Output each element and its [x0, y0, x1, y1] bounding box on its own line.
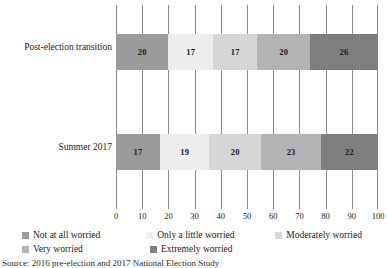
legend-row: Not at all worriedOnly a little worriedM… — [22, 228, 382, 242]
bar-segment: 20 — [116, 34, 168, 70]
bar-segment: 19 — [160, 134, 209, 170]
legend-label: Only a little worried — [157, 230, 234, 240]
legend-swatch-icon — [275, 232, 282, 239]
legend-swatch-icon — [22, 232, 29, 239]
x-tick-label: 20 — [164, 211, 173, 221]
legend-label: Very worried — [33, 244, 83, 254]
bar-segment: 17 — [213, 34, 258, 70]
plot-area: 2017172026 1719202322 — [116, 5, 378, 203]
chart-legend: Not at all worriedOnly a little worriedM… — [22, 228, 382, 256]
x-tick-label: 90 — [348, 211, 357, 221]
x-tick-mark — [273, 203, 274, 209]
legend-label: Extremely worried — [161, 244, 233, 254]
bar-row: 2017172026 — [116, 34, 378, 70]
x-tick-label: 60 — [269, 211, 278, 221]
x-tick-label: 70 — [295, 211, 304, 221]
x-tick-mark — [221, 203, 222, 209]
bar-segment: 20 — [209, 134, 261, 170]
x-tick-label: 50 — [243, 211, 252, 221]
legend-swatch-icon — [150, 246, 157, 253]
legend-item[interactable]: Moderately worried — [275, 230, 382, 240]
x-tick-mark — [352, 203, 353, 209]
x-tick-label: 80 — [321, 211, 330, 221]
legend-label: Not at all worried — [33, 230, 100, 240]
x-tick-mark — [168, 203, 169, 209]
legend-row: Very worriedExtremely worried — [22, 242, 382, 256]
bar-segment: 17 — [116, 134, 160, 170]
source-note: Source: 2016 pre-election and 2017 Natio… — [2, 258, 219, 268]
legend-swatch-icon — [146, 232, 153, 239]
x-tick-label: 0 — [114, 211, 118, 221]
legend-swatch-icon — [22, 246, 29, 253]
legend-label: Moderately worried — [286, 230, 362, 240]
bar-segment: 23 — [261, 134, 321, 170]
bar-segment: 17 — [168, 34, 213, 70]
x-tick-mark — [142, 203, 143, 209]
x-tick-mark — [247, 203, 248, 209]
legend-item[interactable]: Only a little worried — [146, 230, 275, 240]
x-tick-mark — [195, 203, 196, 209]
bar-segment: 22 — [321, 134, 378, 170]
legend-item[interactable]: Not at all worried — [22, 230, 146, 240]
x-tick-mark — [326, 203, 327, 209]
x-tick-label: 40 — [217, 211, 226, 221]
category-label-post-election-transition: Post-election transition — [0, 42, 112, 52]
legend-item[interactable]: Very worried — [22, 244, 150, 254]
bar-row: 1719202322 — [116, 134, 378, 170]
bar-segment: 20 — [257, 34, 309, 70]
x-tick-label: 100 — [372, 211, 385, 221]
category-label-summer-2017: Summer 2017 — [0, 142, 112, 152]
x-tick-mark — [299, 203, 300, 209]
x-axis: 0102030405060708090100 — [116, 203, 378, 225]
x-tick-mark — [116, 203, 117, 209]
x-tick-label: 30 — [190, 211, 199, 221]
bar-segment: 26 — [310, 34, 378, 70]
x-tick-mark — [377, 203, 378, 209]
legend-item[interactable]: Extremely worried — [150, 244, 283, 254]
x-tick-label: 10 — [138, 211, 147, 221]
